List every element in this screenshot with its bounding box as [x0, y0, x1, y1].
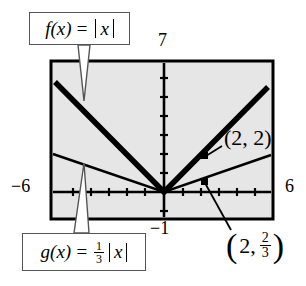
equation-f-var: x — [57, 18, 65, 40]
point-label-paren-close: ) — [273, 232, 284, 260]
equation-g: g(x) = 1 3 x — [41, 240, 128, 265]
point-label-2-2: (2, 2) — [224, 125, 272, 151]
equation-g-fraction-denominator: 3 — [94, 253, 104, 265]
equation-g-fraction: 1 3 — [94, 240, 104, 265]
equation-g-paren-close: ) — [65, 241, 71, 263]
equation-f-abs-var: x — [100, 18, 108, 40]
point-label-fraction-denominator: 3 — [260, 246, 271, 260]
equation-f-abs: x — [95, 19, 113, 38]
point-label-fraction-numerator: 2 — [260, 231, 271, 246]
callout-g-equation: g(x) = 1 3 x — [22, 233, 146, 271]
equation-g-equals: = — [75, 241, 88, 263]
equation-f-paren-close: ) — [65, 18, 71, 40]
equation-g-var: x — [56, 241, 64, 263]
equation-g-abs-var: x — [114, 241, 122, 263]
equation-g-abs: x — [109, 243, 127, 262]
y-axis-max-label: 7 — [158, 30, 167, 51]
y-axis-min-label: −1 — [150, 218, 169, 239]
callout-f-equation: f(x) = x — [29, 12, 130, 45]
equation-g-name: g — [41, 241, 51, 263]
x-axis-max-label: 6 — [285, 176, 294, 197]
point-label-fraction: 2 3 — [260, 231, 271, 260]
equation-f-equals: = — [76, 18, 89, 40]
equation-f: f(x) = x — [45, 18, 114, 40]
x-axis-min-label: −6 — [11, 176, 30, 197]
point-label-x-value: 2, — [239, 233, 256, 259]
absolute-value-graph-figure: f(x) = x g(x) = 1 3 x 7 −6 6 −1 (2, 2) (… — [0, 0, 306, 286]
point-label-paren-open: ( — [226, 232, 237, 260]
equation-g-fraction-numerator: 1 — [94, 240, 104, 253]
point-label-2-two-thirds: ( 2, 2 3 ) — [226, 231, 284, 260]
